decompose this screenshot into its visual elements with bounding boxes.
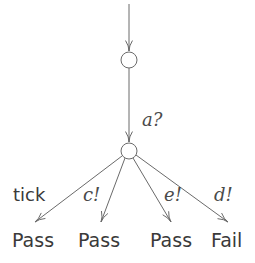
arrowhead-icon [218,213,228,222]
verdicts-layer: PassPassPassFail [12,229,242,251]
verdict-pass: Pass [150,229,192,251]
state-node-s1 [121,143,137,159]
arrowhead-icon [163,211,171,222]
test-tree-diagram: a?tickc!e!d! PassPassPassFail [0,0,255,263]
transition-tick [35,156,122,222]
initial-arrow [126,4,133,51]
verdict-pass: Pass [12,229,54,251]
transition-label: a? [142,109,163,130]
transition-line [35,156,122,222]
transition-c [101,158,125,222]
transition-label: d! [214,184,233,205]
transition-label: e! [164,184,182,205]
edges-layer [35,4,228,222]
labels-layer: a?tickc!e!d! [13,109,233,205]
transition-label: tick [13,184,46,205]
verdict-fail: Fail [211,229,242,251]
state-node-s0 [121,52,137,68]
transition-line [101,158,125,222]
transition-a [126,68,133,142]
transition-label: c! [83,184,100,205]
verdict-pass: Pass [78,229,120,251]
